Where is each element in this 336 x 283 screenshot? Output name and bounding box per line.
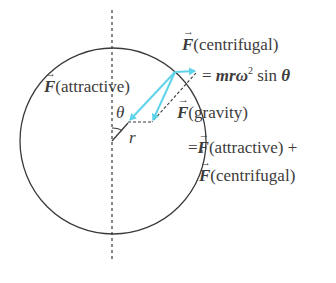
vector-f-symbol: F (44, 77, 55, 96)
label-theta: θ (116, 104, 124, 121)
vector-f-symbol: F (182, 35, 193, 54)
radius-line (112, 123, 128, 141)
vector-f-symbol: F (198, 138, 209, 157)
gravity-arrow (153, 72, 175, 120)
centrifugal-arrow (175, 71, 195, 72)
label-gravity: F(gravity) (177, 104, 248, 121)
label-attractive: F(attractive) (44, 78, 130, 95)
label-centrifugal: F(centrifugal) (182, 36, 278, 53)
vector-f-symbol: F (177, 103, 188, 122)
label-centrifugal-formula: = mrω2 sin θ (202, 66, 290, 84)
attractive-arrow (130, 72, 175, 120)
label-gravity-sum-line1: =F(attractive) + (188, 139, 297, 156)
vector-f-symbol: F (199, 166, 210, 185)
label-gravity-sum-line2: F(centrifugal) (199, 167, 295, 184)
label-radius: r (129, 129, 136, 146)
